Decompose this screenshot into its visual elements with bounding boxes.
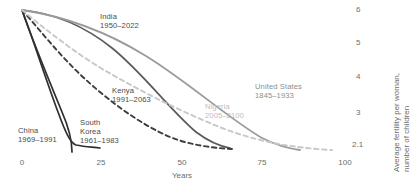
series-annotation-kenya-name: Kenya	[112, 86, 151, 95]
series-annotation-united-states-period: 1845–1933	[255, 91, 302, 100]
series-annotation-united-states: United States 1845–1933	[255, 82, 302, 100]
x-axis-title: Years	[162, 171, 202, 180]
series-annotation-south-korea: South Korea 1961–1983	[80, 118, 119, 146]
y-tick-4: 4	[356, 72, 360, 81]
x-tick-75: 75	[252, 158, 272, 167]
series-annotation-kenya: Kenya 1991–2063	[112, 86, 151, 104]
y-axis-title-line1: Average fertility per woman,	[392, 73, 402, 172]
series-annotation-united-states-name: United States	[255, 82, 302, 91]
series-annotation-south-korea-name1: South	[80, 118, 119, 127]
y-tick-3: 3	[356, 108, 360, 117]
x-tick-100: 100	[333, 158, 357, 167]
series-annotation-nigeria: Nigeria 2005–2100	[205, 102, 244, 120]
x-tick-25: 25	[91, 158, 111, 167]
series-annotation-south-korea-name2: Korea	[80, 127, 119, 136]
y-axis-title: Average fertility per woman, number of c…	[392, 73, 411, 172]
y-tick-2-1: 2.1	[352, 140, 363, 149]
series-annotation-india: India 1950–2022	[100, 12, 139, 30]
series-annotation-nigeria-name: Nigeria	[205, 102, 244, 111]
y-axis-title-line2: number of children	[402, 73, 411, 172]
series-annotation-nigeria-period: 2005–2100	[205, 111, 244, 120]
x-tick-50: 50	[172, 158, 192, 167]
series-annotation-india-period: 1950–2022	[100, 21, 139, 30]
series-annotation-china-period: 1969–1991	[18, 135, 57, 144]
series-annotation-kenya-period: 1991–2063	[112, 95, 151, 104]
x-tick-0: 0	[12, 158, 32, 167]
series-annotation-south-korea-period: 1961–1983	[80, 136, 119, 145]
series-annotation-china-name: China	[18, 126, 57, 135]
series-line-united-states	[22, 10, 300, 150]
y-tick-6: 6	[356, 5, 360, 14]
series-annotation-china: China 1969–1991	[18, 126, 57, 144]
series-annotation-india-name: India	[100, 12, 139, 21]
y-tick-5: 5	[356, 38, 360, 47]
